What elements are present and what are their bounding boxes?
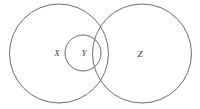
- circle-label-x: X: [53, 48, 60, 58]
- circle-label-y: Y: [81, 48, 87, 58]
- circle-label-z: Z: [137, 49, 143, 59]
- venn-diagram-figure: X Y Z: [0, 0, 200, 109]
- venn-diagram-canvas: X Y Z: [0, 0, 200, 109]
